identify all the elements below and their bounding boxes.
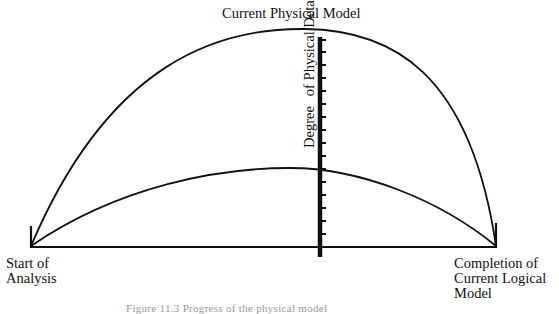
figure-caption: Figure 11.3 Progress of the physical mod… [126, 302, 327, 314]
start-label-line2: Analysis [6, 271, 57, 286]
axis-label-part1: Degree [301, 106, 317, 148]
end-label-line2: Current Logical [454, 271, 546, 286]
start-label-line1: Start of [6, 256, 57, 271]
upper-curve [31, 29, 496, 246]
start-label: Start of Analysis [6, 256, 57, 286]
end-label-line1: Completion of [454, 256, 546, 271]
axis-label: Degreeof Physical Detail [301, 0, 318, 148]
axis-label-part2: of Physical Detail [301, 0, 317, 96]
lower-curve [31, 168, 496, 246]
end-label: Completion of Current Logical Model [454, 256, 546, 301]
end-label-line3: Model [454, 286, 546, 301]
top-label: Current Physical Model [222, 6, 361, 21]
